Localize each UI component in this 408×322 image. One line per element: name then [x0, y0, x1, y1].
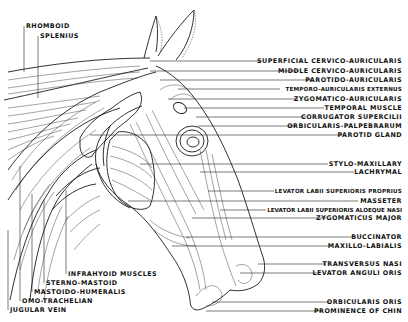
label-jugular-vein: JUGULAR VEIN — [10, 307, 67, 314]
label-zygomaticus-major: ZYGOMATICUS MAJOR — [316, 215, 402, 222]
label-prominence-of-chin: PROMINENCE OF CHIN — [314, 308, 402, 315]
label-rhomboid: RHOMBOID — [26, 23, 70, 30]
label-mastoido-humeralis: MASTOIDO-HUMERALIS — [34, 289, 126, 296]
label-lachrymal: LACHRYMAL — [354, 169, 402, 176]
label-corrugator-supercilii: CORRUGATOR SUPERCILII — [301, 114, 402, 121]
label-stylo-maxillary: STYLO-MAXILLARY — [329, 161, 402, 168]
label-sterno-mastoid: STERNO-MASTOID — [46, 280, 117, 287]
label-infrahyoid-muscles: INFRAHYOID MUSCLES — [68, 271, 157, 278]
label-omo-trachelian: OMO-TRACHELIAN — [22, 298, 93, 305]
label-levator-labii-superioris-proprius: LEVATOR LABII SUPERIORIS PROPRIUS — [275, 188, 402, 195]
label-splenius: SPLENIUS — [40, 33, 79, 40]
ears — [144, 10, 196, 60]
label-temporal-muscle: TEMPORAL MUSCLE — [325, 105, 402, 112]
left-leader-lines — [8, 26, 66, 310]
label-maxillo-labialis: MAXILLO-LABIALIS — [328, 243, 402, 250]
label-parotido-auricularis: PAROTIDO-AURICULARIS — [305, 77, 402, 84]
label-parotid-gland: PAROTID GLAND — [338, 132, 402, 139]
label-zygomatico-auricularis: ZYGOMATICO-AURICULARIS — [294, 96, 402, 103]
eye — [176, 126, 208, 156]
label-masseter: MASSETER — [360, 198, 402, 205]
label-orbicularis-oris: ORBICULARIS ORIS — [327, 299, 402, 306]
label-buccinator: BUCCINATOR — [351, 234, 402, 241]
label-temporo-auricularis-externus: TEMPORO-AURICULARIS EXTERNUS — [286, 86, 402, 93]
label-orbicularis-palpebrarum: ORBICULARIS-PALPEBRARUM — [287, 123, 402, 130]
label-levator-anguli-oris: LEVATOR ANGULI ORIS — [312, 270, 402, 277]
label-middle-cervico-auricularis: MIDDLE CERVICO-AURICULARIS — [278, 68, 402, 75]
label-levator-labii-superioris-aloeque-nasi: LEVATOR LABII SUPERIORIS ALOEQUE NASI — [267, 207, 402, 214]
neck-muscle-fibers — [8, 66, 140, 300]
label-superficial-cervico-auricularis: SUPERFICIAL CERVICO-AURICULARIS — [257, 58, 402, 65]
label-transversus-nasi: TRANSVERSUS NASI — [322, 261, 402, 268]
